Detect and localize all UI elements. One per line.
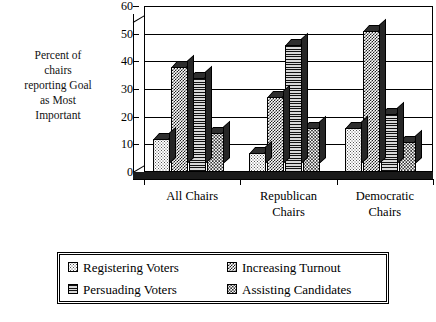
x-axis-category-label-line: Democratic [337,188,433,204]
x-axis-category-labels: All ChairsRepublicanChairsDemocraticChai… [111,188,433,228]
legend-item-label: Registering Voters [83,260,179,275]
x-axis-category-label-line: Chairs [240,204,336,220]
y-axis-tick-mark [133,61,139,62]
legend-item[interactable]: Increasing Turnout [223,260,382,275]
bar-side-face [361,115,368,164]
bar-side-face [379,19,386,164]
bar [267,97,284,172]
x-axis-category-label-line: Chairs [337,204,433,220]
y-axis-tick-label: 50 [111,28,133,40]
y-axis-tick-labels: 0102030405060 [111,6,133,186]
y-axis-tick-label: 20 [111,111,133,123]
bar-side-face [415,129,422,164]
y-axis-title-line: Important [4,108,112,123]
bar [345,128,362,172]
legend-item[interactable]: Registering Voters [64,260,223,275]
y-axis-title-line: as Most [4,93,112,108]
bar-side-face [319,115,326,164]
x-axis-tick-mark [337,179,338,185]
legend-swatch-icon [227,284,237,294]
bar-side-face [169,127,176,164]
bar [153,139,170,172]
chart-legend: Registering VotersIncreasing TurnoutPers… [57,252,389,304]
bar-side-face [187,55,194,164]
chart-legend-inner: Registering VotersIncreasing TurnoutPers… [59,254,387,302]
y-axis-tick-label: 10 [111,138,133,150]
bar-side-face [223,121,230,164]
x-axis-line [133,179,433,180]
y-axis-title: Percent of chairs reporting Goal as Most… [4,48,112,123]
bar-side-face [397,102,404,164]
y-axis-tick-mark [133,89,139,90]
y-axis-tick-label: 30 [111,83,133,95]
legend-swatch-icon [227,262,237,272]
x-axis-category-label: RepublicanChairs [240,188,336,220]
x-axis-category-label: All Chairs [144,188,240,204]
legend-item-label: Increasing Turnout [242,260,341,275]
legend-swatch-icon [68,262,78,272]
y-axis-tick-mark [133,34,139,35]
legend-item[interactable]: Persuading Voters [64,282,223,297]
bar [249,153,266,172]
y-axis-title-line: Percent of [4,48,112,63]
y-axis-tick-mark [133,144,139,145]
x-axis-tick-mark [240,179,241,185]
y-axis-tick-label: 0 [111,166,133,178]
bar-side-face [205,66,212,164]
y-axis-tick-label: 40 [111,55,133,67]
x-axis-tick-mark [433,179,434,185]
y-axis-tick-mark [133,117,139,118]
y-axis-title-line: chairs [4,63,112,78]
y-axis-tick-mark [133,6,139,7]
legend-item[interactable]: Assisting Candidates [223,282,382,297]
x-axis-tick-mark [144,179,145,185]
x-axis-category-label: DemocraticChairs [337,188,433,220]
x-axis-category-label-line: All Chairs [144,188,240,204]
bar-side-face [301,32,308,164]
legend-swatch-icon [68,284,78,294]
y-axis-line [133,14,134,172]
legend-item-label: Persuading Voters [83,282,177,297]
y-axis-title-line: reporting Goal [4,78,112,93]
chart-plot: 0102030405060 [111,6,433,186]
y-axis-tick-label: 60 [111,0,133,12]
chart-floor [133,172,433,179]
bar-side-face [283,85,290,164]
legend-item-label: Assisting Candidates [242,282,351,297]
bars-layer [144,6,433,172]
x-axis-category-label-line: Republican [240,188,336,204]
y-axis-depth-top [133,14,144,22]
